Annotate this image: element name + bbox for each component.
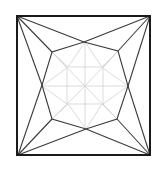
diagram-canvas xyxy=(0,0,163,171)
inner-light-lines xyxy=(42,42,128,129)
crease-pattern-diagram xyxy=(0,0,163,171)
corner-rays xyxy=(17,16,150,155)
